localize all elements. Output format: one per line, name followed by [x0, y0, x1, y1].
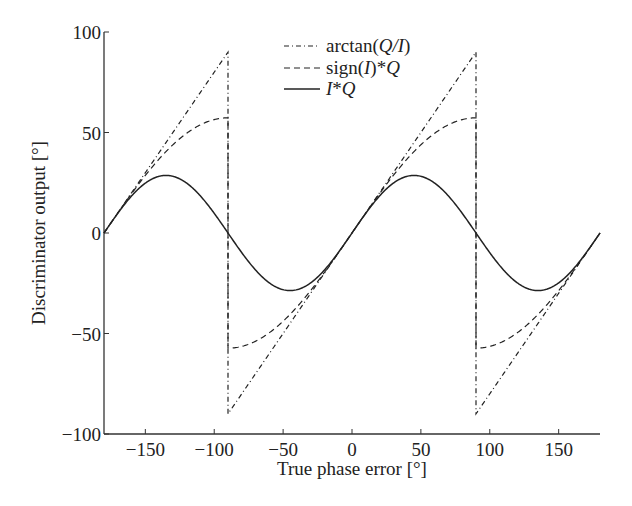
- x-axis-title: True phase error [°]: [277, 458, 427, 479]
- x-tick-label: 150: [544, 439, 573, 460]
- legend: arctan(Q/I) sign(I)*Q I*Q: [284, 35, 410, 99]
- x-tick-label: 0: [347, 439, 357, 460]
- y-tick-label: 50: [82, 123, 101, 144]
- x-tick-label: −100: [195, 439, 234, 460]
- x-tick-label: 100: [476, 439, 505, 460]
- y-tick-label: −50: [71, 324, 101, 345]
- y-tick-label: 100: [73, 22, 102, 43]
- x-tick-label: −50: [268, 439, 298, 460]
- x-tick-label: 50: [411, 439, 430, 460]
- discriminator-chart: −150−100−50050100150−100−50050100 True p…: [0, 0, 632, 506]
- x-tick-label: −150: [126, 439, 165, 460]
- y-tick-label: −100: [62, 424, 101, 445]
- plot-series: [104, 52, 600, 414]
- tick-marks: −150−100−50050100150−100−50050100: [62, 22, 573, 460]
- legend-label-sign: sign(I)*Q: [326, 57, 400, 79]
- legend-label-arctan: arctan(Q/I): [326, 35, 410, 57]
- y-axis-title: Discriminator output [°]: [28, 141, 49, 325]
- legend-label-iq: I*Q: [325, 78, 356, 99]
- y-tick-label: 0: [92, 223, 102, 244]
- series-iq: [104, 175, 600, 290]
